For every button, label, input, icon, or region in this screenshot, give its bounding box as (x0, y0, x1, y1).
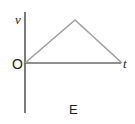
triangle-curve (25, 20, 122, 63)
x-axis-label: t (123, 57, 127, 70)
y-axis-label: v (15, 13, 21, 26)
origin-label: O (12, 57, 23, 71)
caption: E (69, 103, 78, 116)
